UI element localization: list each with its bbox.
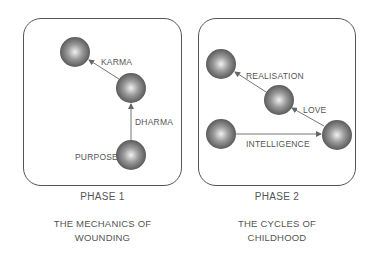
sphere-node xyxy=(206,49,236,79)
sphere-node xyxy=(264,85,294,115)
love-label: LOVE xyxy=(303,105,327,115)
sphere-node xyxy=(116,73,146,103)
karma-label: KARMA xyxy=(101,57,132,67)
sphere-node xyxy=(206,119,236,149)
sphere-node xyxy=(322,120,352,150)
phase-2-caption: PHASE 2 xyxy=(198,191,356,202)
phase-1-subtitle-line2: WOUNDING xyxy=(23,231,182,245)
intelligence-label: INTELLIGENCE xyxy=(246,139,310,149)
purpose-label: PURPOSE xyxy=(75,152,118,162)
sphere-node xyxy=(60,37,90,67)
phase-1-subtitle: THE MECHANICS OF WOUNDING xyxy=(23,217,182,245)
phase-2-subtitle: THE CYCLES OF CHILDHOOD xyxy=(198,217,356,245)
phase-2-subtitle-line1: THE CYCLES OF xyxy=(198,217,356,231)
dharma-label: DHARMA xyxy=(135,117,173,127)
realisation-label: REALISATION xyxy=(246,71,304,81)
phase-2-subtitle-line2: CHILDHOOD xyxy=(198,231,356,245)
sphere-node xyxy=(116,140,146,170)
phase-1-caption: PHASE 1 xyxy=(23,191,182,202)
phase-1-subtitle-line1: THE MECHANICS OF xyxy=(23,217,182,231)
